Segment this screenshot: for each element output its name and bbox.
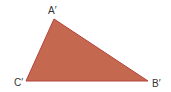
triangle-figure bbox=[0, 0, 171, 92]
vertex-label-b: B′ bbox=[152, 79, 161, 89]
vertex-label-c: C′ bbox=[14, 78, 23, 88]
vertex-label-a: A′ bbox=[48, 6, 57, 16]
triangle-a-b-c bbox=[26, 19, 148, 81]
